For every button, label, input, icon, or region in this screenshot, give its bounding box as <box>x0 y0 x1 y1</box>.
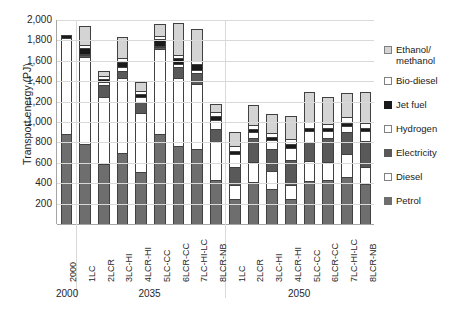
segment-petrol <box>173 146 185 224</box>
segment-petrol <box>322 180 334 224</box>
gridline <box>57 183 374 184</box>
legend-item-bio-diesel[interactable]: Bio-diesel <box>384 75 470 86</box>
group-label: 2000 <box>56 288 75 299</box>
x-axis-line <box>57 224 374 225</box>
x-tick-label: 4LCR-HI <box>144 247 153 282</box>
segment-ethanol-methanol <box>135 82 147 91</box>
bar-4lcr-hi[interactable] <box>285 116 297 224</box>
segment-petrol <box>304 181 316 224</box>
segment-electricity <box>98 85 110 96</box>
legend-swatch-icon <box>384 46 392 54</box>
bar-3lc-hi[interactable] <box>266 114 278 224</box>
gridline <box>57 122 374 123</box>
gridline <box>57 61 374 62</box>
y-tick-label: 800 <box>35 137 52 147</box>
legend-item-ethanol-[interactable]: Ethanol/methanol <box>384 44 470 66</box>
y-tick-label: 1,600 <box>27 56 52 66</box>
x-tick-label: 6LCR-CC <box>182 243 191 282</box>
segment-hydrogen <box>229 154 241 167</box>
segment-diesel <box>341 154 353 177</box>
x-tick-label: 7LC-HI-LC <box>350 239 359 282</box>
segment-diesel <box>210 142 222 180</box>
segment-diesel <box>61 38 73 134</box>
segment-diesel <box>173 78 185 146</box>
x-tick-label: 1LC <box>88 265 97 282</box>
legend-swatch-icon <box>384 197 392 205</box>
legend-item-diesel[interactable]: Diesel <box>384 171 470 182</box>
x-tick-label: 3LC-HI <box>275 253 284 282</box>
gridline <box>57 20 374 21</box>
segment-petrol <box>210 180 222 224</box>
segment-ethanol-methanol <box>341 93 353 117</box>
group-label: 2050 <box>224 288 374 299</box>
segment-ethanol-methanol <box>173 23 185 56</box>
y-tick-label: 1,400 <box>27 76 52 86</box>
legend-label: Hydrogen <box>396 123 437 134</box>
segment-hydrogen <box>322 131 334 138</box>
bar-6lcr-cc[interactable] <box>173 23 185 224</box>
bar-2lcr[interactable] <box>248 105 260 224</box>
y-tick-label: 1,000 <box>27 117 52 127</box>
bar-5lc-cc[interactable] <box>154 24 166 224</box>
bar-6lcr-cc[interactable] <box>322 97 334 224</box>
legend-swatch-icon <box>384 149 392 157</box>
x-tick-label: 4LCR-HI <box>294 247 303 282</box>
segment-diesel <box>304 161 316 181</box>
segment-petrol <box>191 149 203 224</box>
y-tick-label: 400 <box>35 178 52 188</box>
segment-diesel <box>98 97 110 164</box>
x-tick-label: 6LCR-CC <box>331 243 340 282</box>
bar-2lcr[interactable] <box>98 71 110 224</box>
bar-7lc-hi-lc[interactable] <box>191 29 203 224</box>
gridline <box>57 163 374 164</box>
legend-label-line2: methanol <box>396 55 435 66</box>
segment-diesel <box>229 185 241 198</box>
legend-item-jet-fuel[interactable]: Jet fuel <box>384 99 470 110</box>
legend-item-petrol[interactable]: Petrol <box>384 195 470 206</box>
legend-item-hydrogen[interactable]: Hydrogen <box>384 123 470 134</box>
legend-swatch-icon <box>384 77 392 85</box>
segment-petrol <box>229 199 241 225</box>
legend-swatch-icon <box>384 125 392 133</box>
gridline <box>57 204 374 205</box>
segment-hydrogen <box>285 148 297 160</box>
legend-swatch-icon <box>384 173 392 181</box>
legend-label: Bio-diesel <box>396 75 438 86</box>
plot-area <box>56 20 374 224</box>
legend-label: Diesel <box>396 171 422 182</box>
segment-ethanol-methanol <box>304 92 316 122</box>
legend-label: Jet fuel <box>396 99 427 110</box>
gridline <box>57 142 374 143</box>
y-tick-label: 2,000 <box>27 15 52 25</box>
legend-label: Ethanol/methanol <box>396 44 435 66</box>
transport-energy-stacked-bar-chart: Transport energy (PJ) 2004006008001,0001… <box>0 0 470 318</box>
segment-petrol <box>98 164 110 224</box>
gridline <box>57 40 374 41</box>
bar-3lc-hi[interactable] <box>117 37 129 224</box>
bar-1lc[interactable] <box>229 132 241 224</box>
segment-diesel <box>360 167 372 184</box>
y-tick-label: 600 <box>35 158 52 168</box>
x-axis-category-labels: 20001LC2LCR3LC-HI4LCR-HI5LC-CC6LCR-CC7LC… <box>56 226 374 284</box>
x-tick-label: 2000 <box>69 262 78 282</box>
segment-electricity <box>117 71 129 79</box>
segment-diesel <box>191 84 203 148</box>
segment-petrol <box>154 134 166 224</box>
legend-label: Electricity <box>396 147 437 158</box>
legend-item-electricity[interactable]: Electricity <box>384 147 470 158</box>
y-tick-label: 200 <box>35 199 52 209</box>
segment-ethanol-methanol <box>79 26 91 44</box>
bar-2000[interactable] <box>61 35 73 224</box>
bar-1lc[interactable] <box>79 26 91 224</box>
segment-electricity <box>191 73 203 84</box>
segment-electricity <box>266 149 278 171</box>
x-tick-label: 8LCR-NB <box>369 243 378 282</box>
segment-ethanol-methanol <box>285 116 297 138</box>
x-tick-label: 5LC-CC <box>313 249 322 282</box>
group-label: 2035 <box>75 288 225 299</box>
y-axis-tick-labels: 2004006008001,0001,2001,4001,6001,8002,0… <box>6 0 52 318</box>
segment-petrol <box>135 172 147 224</box>
x-tick-label: 7LC-HI-LC <box>200 239 209 282</box>
x-tick-label: 3LC-HI <box>125 253 134 282</box>
segment-diesel <box>322 162 334 180</box>
